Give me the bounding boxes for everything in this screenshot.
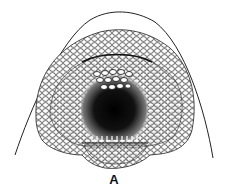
panel-label: A xyxy=(0,172,228,187)
oral-disc-illustration xyxy=(0,0,228,194)
buccal-cavity xyxy=(81,73,148,141)
